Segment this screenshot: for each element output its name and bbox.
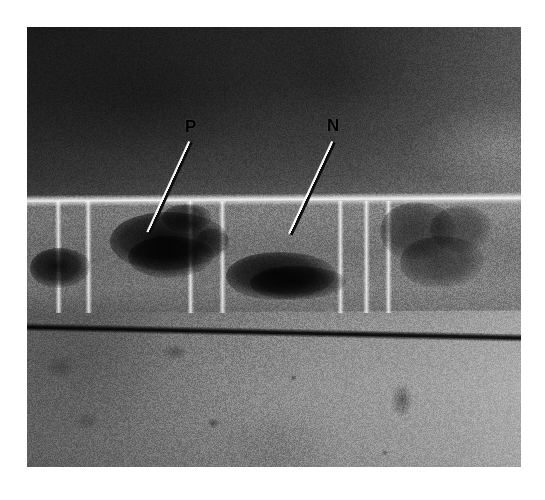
label-p: P (185, 118, 197, 135)
debris-speck (44, 356, 78, 378)
filament-bottom-wall (27, 323, 521, 342)
label-n: N (327, 117, 339, 134)
photomicrograph-image: PN (27, 27, 521, 467)
debris-speck (290, 374, 297, 381)
debris-speck (72, 412, 102, 430)
septum (337, 201, 344, 313)
debris-speck (207, 418, 219, 428)
debris-speck (382, 450, 388, 456)
debris-speck (162, 344, 188, 360)
septum (219, 201, 226, 313)
debris-speck (391, 382, 413, 418)
filament-trichome (27, 195, 521, 323)
septum (363, 201, 370, 313)
figure-root: PN (0, 0, 545, 500)
